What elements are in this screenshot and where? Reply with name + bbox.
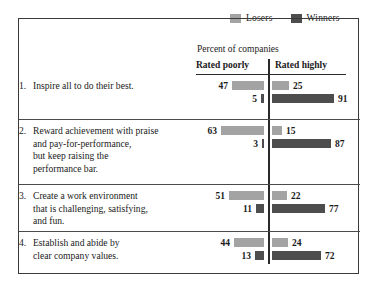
bar-value-losers-right: 25 bbox=[293, 82, 303, 91]
row-label-line: that is challenging, satisfying, bbox=[19, 203, 194, 216]
bar-losers-left bbox=[221, 126, 264, 135]
bar-losers-left bbox=[232, 81, 264, 90]
row-label-line: 3.Create a work environment bbox=[19, 190, 194, 203]
bar-winners-left bbox=[262, 139, 264, 148]
bar-value-losers-right: 24 bbox=[292, 239, 302, 248]
chart-root: Losers Winners Percent of companies Rate… bbox=[0, 0, 379, 286]
bar-losers-left bbox=[234, 238, 264, 247]
bar-winners-right bbox=[272, 139, 331, 148]
bar-value-winners-left: 3 bbox=[240, 140, 258, 149]
column-header-rated-poorly: Rated poorly bbox=[196, 60, 249, 70]
row-label-line: clear company values. bbox=[19, 250, 194, 263]
bar-winners-left bbox=[261, 94, 264, 103]
row-label: 4.Establish and abide byclear company va… bbox=[19, 237, 194, 262]
bar-value-losers-right: 15 bbox=[286, 127, 296, 136]
row-number: 1. bbox=[19, 80, 33, 93]
chart-subtitle: Percent of companies bbox=[197, 44, 279, 54]
row-label-line: performance bar. bbox=[19, 163, 194, 176]
bar-value-losers-right: 22 bbox=[291, 192, 301, 201]
bar-value-winners-left: 11 bbox=[234, 205, 252, 214]
row-separator bbox=[19, 231, 360, 232]
bar-winners-right bbox=[272, 251, 321, 260]
bar-winners-left bbox=[256, 204, 264, 213]
row-number: 3. bbox=[19, 190, 33, 203]
row-separator bbox=[19, 119, 360, 120]
bar-winners-right bbox=[272, 204, 325, 213]
bar-losers-right bbox=[272, 126, 282, 135]
header-underline bbox=[196, 74, 346, 75]
row-label: 1.Inspire all to do their best. bbox=[19, 80, 194, 93]
bar-losers-left bbox=[229, 191, 264, 200]
row-label-line: and fun. bbox=[19, 215, 194, 228]
row-label-line: 1.Inspire all to do their best. bbox=[19, 80, 194, 93]
row-number: 4. bbox=[19, 237, 33, 250]
row-label: 2.Reward achievement with praiseand pay-… bbox=[19, 125, 194, 175]
column-header-rated-highly: Rated highly bbox=[275, 60, 327, 70]
bar-value-winners-left: 13 bbox=[233, 252, 251, 261]
bar-losers-right bbox=[272, 238, 288, 247]
bar-value-winners-left: 5 bbox=[239, 95, 257, 104]
bar-value-winners-right: 77 bbox=[329, 205, 339, 214]
row-label: 3.Create a work environmentthat is chall… bbox=[19, 190, 194, 228]
row-label-line: 4.Establish and abide by bbox=[19, 237, 194, 250]
row-label-line: but keep raising the bbox=[19, 150, 194, 163]
bar-value-winners-right: 72 bbox=[325, 252, 335, 261]
bar-losers-right bbox=[272, 81, 289, 90]
center-divider bbox=[268, 59, 270, 264]
bar-value-losers-left: 44 bbox=[212, 239, 230, 248]
column-headers: Rated poorly Rated highly bbox=[196, 60, 346, 74]
bar-value-winners-right: 91 bbox=[338, 95, 348, 104]
row-label-line: and pay-for-performance, bbox=[19, 138, 194, 151]
bar-winners-left bbox=[255, 251, 264, 260]
bar-losers-right bbox=[272, 191, 287, 200]
bar-value-losers-left: 51 bbox=[207, 192, 225, 201]
row-label-line: 2.Reward achievement with praise bbox=[19, 125, 194, 138]
row-number: 2. bbox=[19, 125, 33, 138]
bar-winners-right bbox=[272, 94, 334, 103]
bar-value-losers-left: 63 bbox=[199, 127, 217, 136]
bar-value-winners-right: 87 bbox=[335, 140, 345, 149]
row-separator bbox=[19, 184, 360, 185]
bar-value-losers-left: 47 bbox=[210, 82, 228, 91]
